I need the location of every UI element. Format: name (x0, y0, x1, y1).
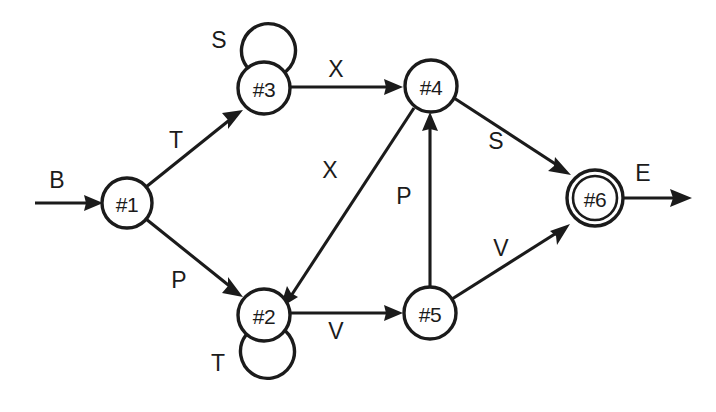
edge-label-v-2-5: V (328, 318, 344, 344)
state-diagram-svg: B T P S X X (0, 0, 716, 412)
node-4-label: #4 (420, 76, 443, 99)
self-loop-label-t: T (211, 350, 225, 376)
edge-5-to-4-arrowhead (422, 112, 438, 131)
edge-label-x-4-2: X (322, 157, 337, 183)
edge-4-to-6-line (454, 98, 560, 167)
edge-4-to-2: X (280, 108, 414, 308)
edge-5-to-4: P (396, 112, 438, 287)
exit-label-e: E (635, 160, 650, 186)
edge-4-to-2-line (289, 108, 414, 299)
edge-label-p-5-4: P (396, 183, 411, 209)
node-1-label: #1 (116, 193, 139, 216)
entry-arrowhead (84, 195, 103, 211)
node-2[interactable]: #2 (238, 289, 290, 341)
exit-arrow-e: E (623, 160, 692, 207)
edge-1-to-2-arrowhead (222, 277, 243, 297)
self-loop-label-s: S (211, 27, 226, 53)
edge-label-p-1-2: P (171, 267, 186, 293)
edge-label-s-4-6: S (488, 128, 503, 154)
node-3-label: #3 (253, 78, 276, 101)
entry-arrow-b: B (35, 167, 103, 211)
exit-arrowhead (670, 189, 692, 207)
node-4[interactable]: #4 (405, 60, 457, 112)
node-3[interactable]: #3 (238, 62, 290, 114)
edge-label-x-3-4: X (328, 56, 343, 82)
edge-2-to-5: V (290, 305, 403, 344)
edge-label-v-5-6: V (493, 235, 509, 261)
entry-label-b: B (49, 167, 64, 193)
edge-1-to-2: P (146, 219, 243, 297)
node-6-label: #6 (584, 188, 607, 211)
state-diagram-canvas: B T P S X X (0, 0, 716, 412)
edge-1-to-2-line (146, 219, 232, 288)
node-5-label: #5 (419, 303, 442, 326)
edge-1-to-3-line (146, 118, 232, 187)
edge-5-to-6: V (452, 224, 570, 299)
edge-3-to-4-arrowhead (384, 79, 403, 95)
node-6[interactable]: #6 (567, 170, 623, 226)
node-5[interactable]: #5 (404, 287, 456, 339)
edge-2-to-5-arrowhead (384, 305, 403, 321)
edge-1-to-3-arrowhead (222, 110, 243, 129)
edge-1-to-3: T (146, 110, 243, 187)
edge-4-to-6: S (454, 98, 571, 175)
node-2-label: #2 (253, 305, 276, 328)
edge-label-t-1-3: T (169, 127, 183, 153)
edge-3-to-4: X (290, 56, 403, 95)
node-1[interactable]: #1 (102, 178, 152, 228)
